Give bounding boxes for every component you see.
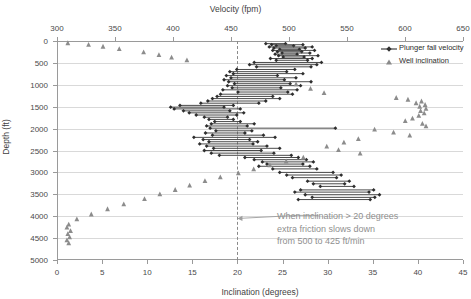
velocity-marker <box>296 156 300 160</box>
velocity-marker <box>229 76 233 80</box>
bottom-tick <box>57 260 58 264</box>
velocity-marker <box>250 129 254 133</box>
velocity-marker <box>235 113 239 117</box>
velocity-marker <box>320 61 324 65</box>
velocity-marker <box>301 72 305 76</box>
velocity-marker <box>368 198 372 202</box>
velocity-marker <box>231 118 235 122</box>
top-tick-label: 350 <box>108 24 121 33</box>
bottom-tick-label: 45 <box>459 268 468 277</box>
top-tick <box>463 37 464 41</box>
velocity-marker <box>335 176 339 180</box>
inclination-marker <box>157 52 162 57</box>
velocity-marker <box>260 160 264 164</box>
bottom-tick-label: 30 <box>323 268 332 277</box>
inclination-marker <box>308 86 313 91</box>
velocity-marker <box>194 113 198 117</box>
legend-item-plunger-fall-velocity: Plunger fall velocity <box>381 43 467 53</box>
annotation-line-1: When inclination > 20 degrees <box>277 210 467 223</box>
velocity-marker <box>303 193 307 197</box>
velocity-marker <box>378 193 382 197</box>
velocity-marker <box>265 162 269 166</box>
velocity-marker <box>339 173 343 177</box>
velocity-marker <box>243 131 247 135</box>
velocity-marker <box>238 120 242 124</box>
velocity-marker <box>278 171 282 175</box>
velocity-marker <box>271 167 275 171</box>
velocity-marker <box>211 97 215 101</box>
velocity-marker <box>309 65 313 69</box>
velocity-marker <box>252 122 256 126</box>
series-plunger-fall-velocity <box>169 42 382 202</box>
inclination-marker <box>121 202 126 207</box>
velocity-marker <box>242 111 246 115</box>
inclination-marker <box>218 174 223 179</box>
velocity-marker <box>285 70 289 74</box>
velocity-marker <box>243 156 247 160</box>
legend-label-0: Plunger fall velocity <box>399 43 464 52</box>
y-tick-label: 4000 <box>30 212 48 221</box>
top-tick-label: 300 <box>50 24 63 33</box>
velocity-marker <box>204 131 208 135</box>
velocity-marker <box>271 95 275 99</box>
velocity-marker <box>257 101 261 105</box>
velocity-marker <box>218 153 222 157</box>
velocity-marker <box>257 164 261 168</box>
velocity-marker <box>187 111 191 115</box>
velocity-marker <box>212 146 216 150</box>
velocity-marker <box>367 190 371 194</box>
bottom-tick <box>192 260 193 264</box>
y-tick-label: 1500 <box>30 102 48 111</box>
velocity-marker <box>293 68 297 72</box>
y-tick-label: 500 <box>35 58 48 67</box>
triangle-icon <box>381 58 397 66</box>
inclination-marker <box>185 57 190 62</box>
velocity-marker <box>227 80 231 84</box>
velocity-marker <box>311 182 315 186</box>
inclination-marker <box>117 46 122 51</box>
velocity-marker <box>315 63 319 67</box>
velocity-marker <box>264 99 268 103</box>
velocity-marker <box>245 124 249 128</box>
velocity-marker <box>233 82 237 86</box>
bottom-tick-label: 15 <box>188 268 197 277</box>
bottom-tick-label: 0 <box>55 268 59 277</box>
bottom-tick <box>102 260 103 264</box>
velocity-marker <box>221 88 225 92</box>
line-diamond-icon <box>381 45 397 53</box>
velocity-marker <box>182 109 186 113</box>
inclination-marker <box>89 212 94 217</box>
y-tick-label: 3000 <box>30 168 48 177</box>
inclination-marker <box>74 216 79 221</box>
annotation-line-3: from 500 to 425 ft/min <box>277 235 467 248</box>
velocity-marker <box>285 173 289 177</box>
annotation-text: When inclination > 20 degrees extra fric… <box>277 210 467 248</box>
velocity-marker <box>373 195 377 199</box>
bottom-tick <box>373 260 374 264</box>
velocity-marker <box>213 120 217 124</box>
velocity-marker <box>215 95 219 99</box>
top-tick-label: 650 <box>456 24 469 33</box>
velocity-marker <box>347 179 351 183</box>
inclination-marker <box>410 116 415 121</box>
inclination-marker <box>414 100 419 105</box>
velocity-marker <box>331 171 335 175</box>
velocity-marker <box>311 160 315 164</box>
velocity-marker <box>209 151 213 155</box>
velocity-marker <box>316 54 320 58</box>
annotation-line-2: extra friction slows down <box>277 223 467 236</box>
velocity-marker <box>372 188 376 192</box>
bottom-tick <box>147 260 148 264</box>
velocity-marker <box>206 99 210 103</box>
y-tick-label: 2000 <box>30 124 48 133</box>
inclination-marker <box>419 99 424 104</box>
velocity-marker <box>205 124 209 128</box>
velocity-marker <box>199 101 203 105</box>
legend: Plunger fall velocity Well inclination <box>381 43 467 68</box>
inclination-marker <box>236 170 241 175</box>
velocity-marker <box>276 74 280 78</box>
bottom-tick <box>418 260 419 264</box>
velocity-marker <box>252 158 256 162</box>
inclination-marker <box>391 130 396 135</box>
velocity-marker <box>226 84 230 88</box>
